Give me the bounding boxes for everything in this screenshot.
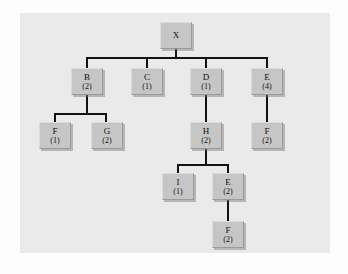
- node-count: (1): [50, 137, 59, 145]
- node-label: X: [173, 31, 180, 40]
- node-count: (1): [173, 188, 182, 196]
- drop-to-d: [205, 57, 207, 68]
- node-label: G: [104, 127, 111, 136]
- tree-node-h2: H(2): [190, 122, 222, 149]
- drop-to-i1: [177, 164, 179, 173]
- node-count: (1): [201, 83, 210, 91]
- tree-node-x: X: [160, 22, 192, 49]
- node-count: (2): [201, 137, 210, 145]
- node-label: B: [84, 73, 90, 82]
- tree-node-f2b: F(2): [212, 221, 244, 248]
- stem-e4-to-f2r: [266, 95, 268, 122]
- drop-to-b: [86, 57, 88, 68]
- drop-to-e2: [227, 164, 229, 173]
- tree-node-c: C(1): [131, 68, 163, 95]
- tree-node-f1: F(1): [39, 122, 71, 149]
- bus-h-children: [177, 164, 228, 166]
- node-label: F: [264, 127, 269, 136]
- tree-node-g2: G(2): [91, 122, 123, 149]
- figure-canvas: XB(2)C(1)D(1)E(4)F(1)G(2)H(2)F(2)I(1)E(2…: [0, 0, 348, 274]
- stem-b-down: [86, 95, 88, 114]
- drop-to-g2: [105, 113, 107, 122]
- node-label: H: [203, 127, 210, 136]
- tree-node-f2r: F(2): [251, 122, 283, 149]
- stem-d-to-h: [205, 95, 207, 122]
- node-count: (2): [262, 137, 271, 145]
- drop-to-c: [146, 57, 148, 68]
- tree-diagram: XB(2)C(1)D(1)E(4)F(1)G(2)H(2)F(2)I(1)E(2…: [0, 0, 348, 274]
- node-count: (2): [223, 188, 232, 196]
- node-count: (4): [262, 83, 271, 91]
- node-label: F: [225, 226, 230, 235]
- node-label: C: [144, 73, 150, 82]
- bus-x-children: [86, 57, 267, 59]
- drop-to-e4: [266, 57, 268, 68]
- tree-node-d: D(1): [190, 68, 222, 95]
- node-label: E: [264, 73, 270, 82]
- node-count: (2): [82, 83, 91, 91]
- node-count: (2): [223, 236, 232, 244]
- tree-node-i1: I(1): [162, 173, 194, 200]
- tree-node-e4: E(4): [251, 68, 283, 95]
- drop-to-f1: [54, 113, 56, 122]
- node-label: F: [52, 127, 57, 136]
- node-count: (1): [142, 83, 151, 91]
- node-label: I: [176, 178, 179, 187]
- node-label: D: [203, 73, 210, 82]
- bus-b-children: [54, 113, 107, 115]
- node-label: E: [225, 178, 231, 187]
- stem-e2-to-f2b: [227, 200, 229, 221]
- tree-node-e2: E(2): [212, 173, 244, 200]
- tree-node-b: B(2): [71, 68, 103, 95]
- node-count: (2): [102, 137, 111, 145]
